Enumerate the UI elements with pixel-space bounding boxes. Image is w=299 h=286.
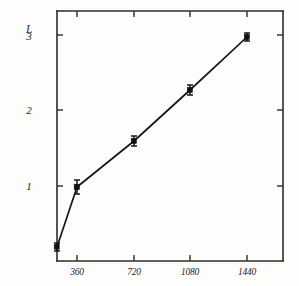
data-point-0 (54, 244, 59, 249)
x-tick-label-360: 360 (69, 267, 84, 277)
plot-frame (57, 11, 283, 261)
y-tick-label-3: 3 (25, 30, 32, 42)
x-tick-label-1440: 1440 (238, 267, 257, 277)
x-tick-label-720: 720 (127, 267, 141, 277)
x-axis-ticks (77, 255, 247, 261)
trend-line (57, 37, 247, 247)
data-point-4 (244, 35, 249, 40)
data-point-1 (74, 184, 79, 189)
data-point-2 (131, 138, 136, 143)
data-series-L (54, 33, 250, 251)
y-axis-ticks (57, 35, 63, 186)
top-axis-ticks (77, 11, 247, 17)
y-tick-label-1: 1 (26, 180, 32, 192)
data-point-3 (187, 87, 192, 92)
y-tick-label-2: 2 (26, 104, 32, 116)
x-tick-label-1080: 1080 (181, 267, 200, 277)
plot-canvas: L 3 2 1 360 720 1080 1440 (0, 0, 299, 286)
figure-container: L 3 2 1 360 720 1080 1440 (0, 0, 299, 286)
right-axis-ticks (277, 35, 283, 186)
